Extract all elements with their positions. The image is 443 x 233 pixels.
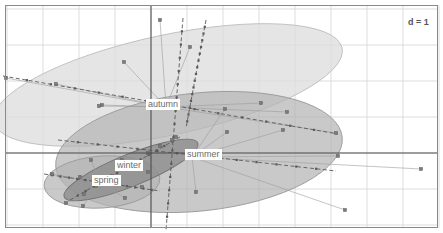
data-point-summer bbox=[344, 209, 347, 212]
axis-tick-marker bbox=[84, 179, 86, 181]
data-point-spring bbox=[65, 202, 68, 205]
data-point-summer bbox=[195, 191, 198, 194]
data-point-summer bbox=[282, 129, 285, 132]
data-point-winter bbox=[159, 145, 162, 148]
axis-tick-marker bbox=[171, 149, 173, 151]
axis-tick-marker bbox=[116, 172, 118, 174]
axis-tick-marker bbox=[155, 149, 157, 151]
data-point-autumn bbox=[260, 102, 263, 105]
data-point-autumn bbox=[335, 132, 338, 135]
scale-bar-label: d = 1 bbox=[408, 17, 429, 27]
axis-tick-marker bbox=[313, 129, 315, 131]
axis-tick-marker bbox=[68, 177, 70, 179]
plot-canvas bbox=[0, 0, 443, 233]
axis-tick-marker bbox=[122, 96, 124, 98]
group-label-autumn: autumn bbox=[146, 99, 180, 110]
axis-tick-marker bbox=[195, 73, 197, 75]
data-point-winter bbox=[83, 193, 86, 196]
axis-tick-marker bbox=[315, 168, 317, 170]
axis-tick-marker bbox=[26, 79, 28, 81]
data-point-spring bbox=[124, 197, 127, 200]
data-point-summer bbox=[420, 168, 423, 171]
axis-tick-marker bbox=[200, 46, 202, 48]
group-label-spring: spring bbox=[92, 175, 121, 186]
data-point-autumn bbox=[98, 105, 101, 108]
data-point-summer bbox=[337, 155, 340, 158]
axis-tick-marker bbox=[77, 141, 79, 143]
group-label-winter: winter bbox=[115, 160, 143, 171]
axis-tick-marker bbox=[169, 176, 171, 178]
axis-tick-marker bbox=[97, 143, 99, 145]
axis-tick-marker bbox=[179, 57, 181, 59]
group-ellipses bbox=[0, 0, 353, 226]
axis-tick-marker bbox=[178, 70, 180, 72]
axis-tick-marker bbox=[191, 93, 193, 95]
axis-tick-marker bbox=[50, 83, 52, 85]
axis-tick-marker bbox=[217, 112, 219, 114]
data-point-autumn bbox=[159, 19, 162, 22]
axis-tick-marker bbox=[74, 87, 76, 89]
data-point-spring bbox=[141, 186, 144, 189]
data-point-spring bbox=[79, 176, 82, 179]
axis-tick-marker bbox=[196, 66, 198, 68]
data-point-spring bbox=[82, 205, 85, 208]
axis-tick-marker bbox=[85, 190, 87, 192]
axis-tick-marker bbox=[197, 59, 199, 61]
data-point-spring bbox=[51, 173, 54, 176]
axis-tick-marker bbox=[76, 178, 78, 180]
axis-tick-marker bbox=[190, 100, 192, 102]
axis-tick-marker bbox=[289, 125, 291, 127]
data-point-autumn bbox=[123, 61, 126, 64]
axis-tick-marker bbox=[173, 123, 175, 125]
ordination-plot: autumn summer spring winter d = 1 bbox=[0, 0, 443, 233]
data-point-summer bbox=[226, 131, 229, 134]
axis-tick-marker bbox=[172, 136, 174, 138]
axis-tick-marker bbox=[163, 145, 165, 147]
group-label-summer: summer bbox=[185, 149, 222, 160]
data-point-autumn bbox=[101, 104, 104, 107]
data-point-autumn bbox=[286, 111, 289, 114]
axis-tick-marker bbox=[236, 159, 238, 161]
axis-tick-marker bbox=[59, 175, 61, 177]
axis-tick-marker bbox=[241, 116, 243, 118]
axis-tick-marker bbox=[202, 32, 204, 34]
axis-tick-marker bbox=[265, 120, 267, 122]
axis-tick-marker bbox=[199, 53, 201, 55]
axis-tick-marker bbox=[186, 120, 188, 122]
axis-tick-marker bbox=[136, 148, 138, 150]
axis-tick-marker bbox=[77, 194, 79, 196]
axis-tick-marker bbox=[201, 39, 203, 41]
axis-tick-marker bbox=[177, 83, 179, 85]
axis-tick-marker bbox=[181, 30, 183, 32]
data-point-summer bbox=[147, 171, 150, 174]
axis-tick-marker bbox=[126, 185, 128, 187]
data-point-winter bbox=[175, 136, 178, 139]
data-point-summer bbox=[224, 108, 227, 111]
data-point-spring bbox=[90, 159, 93, 162]
axis-tick-marker bbox=[166, 216, 168, 218]
axis-tick-marker bbox=[255, 161, 257, 163]
axis-tick-marker bbox=[193, 108, 195, 110]
axis-tick-marker bbox=[168, 189, 170, 191]
axis-tick-marker bbox=[98, 91, 100, 93]
axis-tick-marker bbox=[194, 80, 196, 82]
data-point-winter bbox=[171, 139, 174, 142]
axis-tick-marker bbox=[295, 165, 297, 167]
axis-tick-marker bbox=[116, 146, 118, 148]
axis-tick-marker bbox=[167, 202, 169, 204]
axis-tick-marker bbox=[189, 107, 191, 109]
axis-tick-marker bbox=[134, 186, 136, 188]
data-point-autumn bbox=[189, 46, 192, 49]
axis-tick-marker bbox=[170, 163, 172, 165]
axis-tick-marker bbox=[204, 26, 206, 28]
axis-tick-marker bbox=[192, 86, 194, 88]
axis-tick-marker bbox=[275, 163, 277, 165]
data-point-autumn bbox=[55, 83, 58, 86]
axis-tick-marker bbox=[187, 113, 189, 115]
axis-tick-marker bbox=[180, 43, 182, 45]
